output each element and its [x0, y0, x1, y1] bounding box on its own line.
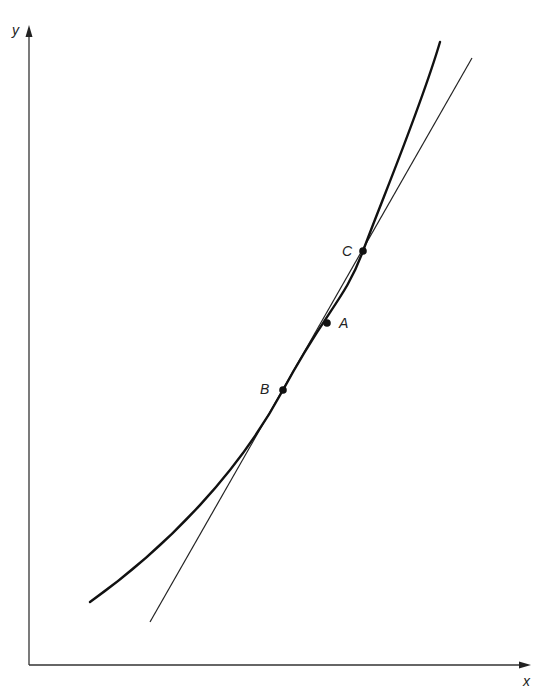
point-c-label: C [342, 243, 353, 259]
point-a-label: A [338, 315, 348, 331]
diagram-canvas: y x B A C [0, 0, 553, 688]
x-axis-arrow-icon [519, 662, 531, 669]
x-axis-label: x [522, 673, 531, 688]
x-axis [29, 662, 531, 669]
point-c [359, 247, 367, 255]
point-b [279, 386, 287, 394]
y-axis [26, 25, 33, 665]
point-b-label: B [260, 381, 269, 397]
y-axis-label: y [11, 22, 20, 38]
y-axis-arrow-icon [26, 25, 33, 37]
curve [90, 42, 440, 602]
point-a [323, 319, 331, 327]
